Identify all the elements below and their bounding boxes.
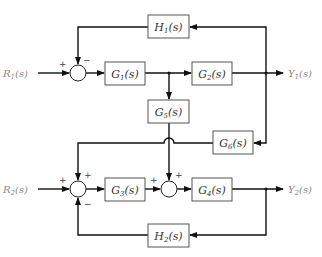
block-g3: G3(s)	[105, 178, 145, 201]
block-h1-label: H	[153, 21, 164, 34]
block-g1-label: G	[111, 68, 120, 81]
block-g6: G6(s)	[213, 131, 253, 154]
input-r1-label: R1(s)	[2, 68, 28, 81]
block-g5: G5(s)	[148, 100, 189, 123]
sign-s1-top: −	[83, 55, 91, 65]
block-h2-label: H	[153, 230, 164, 243]
svg-text:G4(s): G4(s)	[198, 184, 226, 198]
summing-junction-2	[70, 181, 86, 197]
svg-text:H2(s): H2(s)	[153, 230, 182, 244]
block-g2: G2(s)	[192, 62, 232, 85]
sign-s3-top: +	[175, 170, 183, 180]
block-g4: G4(s)	[192, 178, 232, 201]
wire-y1-to-g6	[254, 73, 266, 143]
output-y2-label: Y2(s)	[288, 184, 312, 197]
block-diagram: + − + + − + + H1(s) G1(s) G2(s) G5(s) G6…	[0, 0, 322, 257]
summing-junction-1	[70, 65, 86, 81]
wire-g6-to-s2	[78, 138, 213, 180]
svg-text:G5(s): G5(s)	[155, 106, 183, 120]
svg-text:G1(s): G1(s)	[111, 68, 139, 82]
block-h2: H2(s)	[148, 224, 189, 247]
sign-s2-top: +	[84, 170, 92, 180]
sign-s2-bottom: −	[84, 199, 92, 209]
block-g1: G1(s)	[105, 62, 145, 85]
cross-wires	[78, 123, 213, 180]
block-h1: H1(s)	[148, 15, 189, 38]
top-loop-wires	[38, 27, 283, 143]
block-g3-label: G	[111, 184, 120, 197]
input-r2-label: R2(s)	[2, 184, 28, 197]
block-g4-label: G	[198, 184, 207, 197]
sign-s2-left: +	[59, 175, 67, 185]
sign-s3-left: +	[150, 175, 158, 185]
svg-text:G2(s): G2(s)	[198, 68, 226, 82]
block-g2-label: G	[198, 68, 207, 81]
block-g6-label: G	[219, 137, 228, 150]
block-g5-label: G	[155, 106, 164, 119]
output-y1-label: Y1(s)	[288, 68, 312, 81]
svg-text:G3(s): G3(s)	[111, 184, 139, 198]
svg-text:H1(s): H1(s)	[153, 21, 182, 35]
sign-s1-left: +	[59, 59, 67, 69]
svg-text:G6(s): G6(s)	[219, 137, 247, 151]
summing-junction-3	[161, 181, 177, 197]
